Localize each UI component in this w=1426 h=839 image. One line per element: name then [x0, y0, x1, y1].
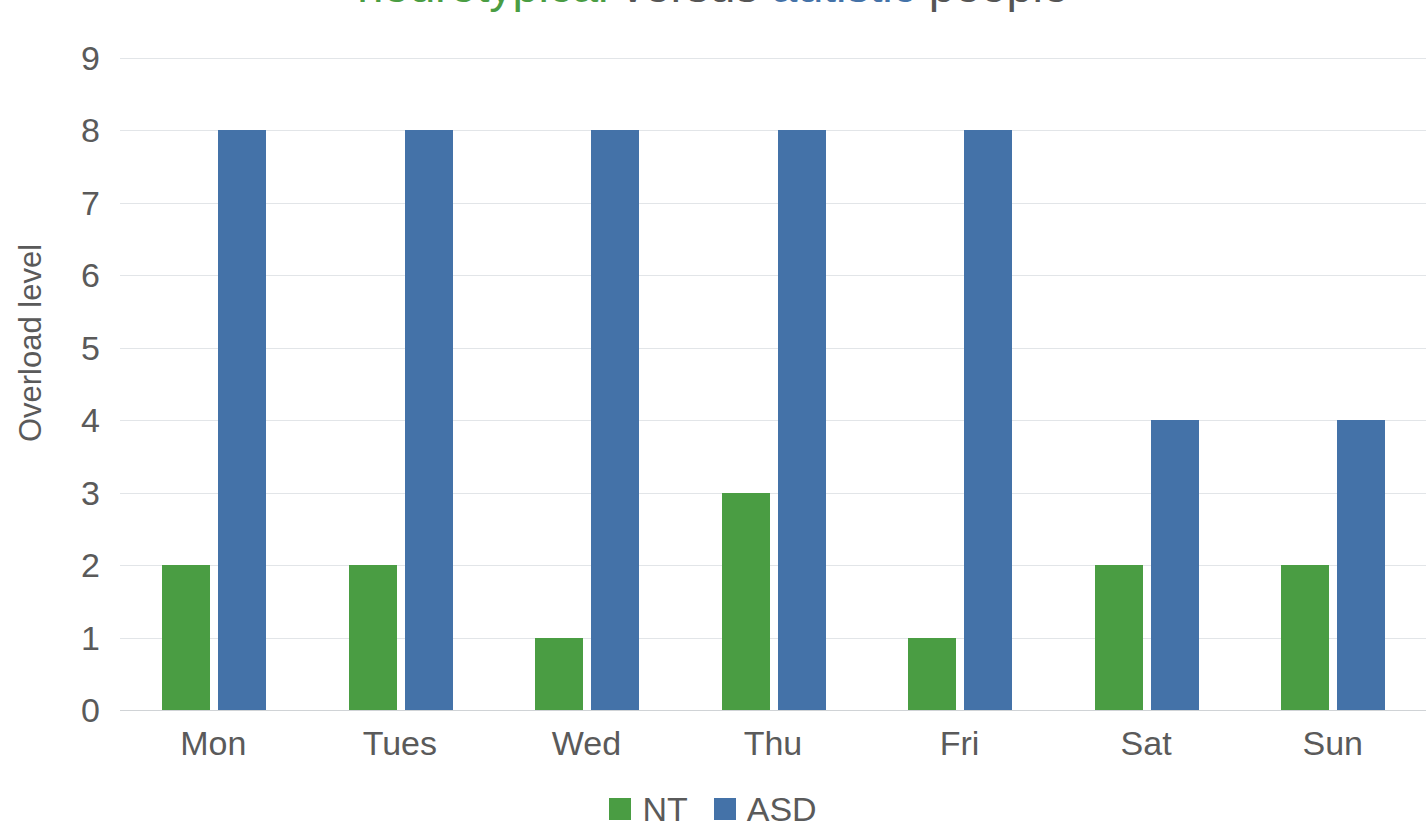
- axis-baseline: [120, 710, 1426, 711]
- y-axis-tick-label: 8: [38, 113, 100, 147]
- y-axis-tick-label: 6: [38, 258, 100, 292]
- y-axis-tick-label: 9: [38, 41, 100, 75]
- chart-screenshot: neurotypical versus autistic people Over…: [0, 0, 1426, 839]
- bar-asd-sat[interactable]: [1151, 420, 1199, 710]
- x-axis-tick-label-sat: Sat: [1053, 718, 1240, 768]
- bar-nt-fri[interactable]: [908, 638, 956, 710]
- bar-nt-mon[interactable]: [162, 565, 210, 710]
- y-axis-tick-label: 2: [38, 548, 100, 582]
- bar-asd-thu[interactable]: [778, 130, 826, 710]
- chart-title-part-autistic: autistic: [771, 0, 916, 12]
- x-axis-tick-label-wed: Wed: [493, 718, 680, 768]
- y-axis-tick-label: 0: [38, 693, 100, 727]
- bar-group: [493, 58, 680, 710]
- x-axis-tick-label-sun: Sun: [1239, 718, 1426, 768]
- y-axis-tick-label: 3: [38, 476, 100, 510]
- bar-nt-sun[interactable]: [1281, 565, 1329, 710]
- chart-title-part-neurotypical: neurotypical: [357, 0, 608, 12]
- bar-group: [1239, 58, 1426, 710]
- bar-group: [120, 58, 307, 710]
- legend-label: NT: [642, 790, 687, 828]
- y-axis-tick-label: 5: [38, 331, 100, 365]
- chart-title: neurotypical versus autistic people: [0, 0, 1426, 15]
- bar-groups: [120, 58, 1426, 710]
- bar-asd-mon[interactable]: [218, 130, 266, 710]
- chart-title-part-versus: versus: [621, 0, 758, 12]
- x-axis-tick-label-fri: Fri: [866, 718, 1053, 768]
- chart-title-part-people: people: [929, 0, 1069, 12]
- bar-asd-wed[interactable]: [591, 130, 639, 710]
- bar-group: [866, 58, 1053, 710]
- legend-swatch-icon: [609, 798, 631, 820]
- legend-item-nt[interactable]: NT: [609, 790, 687, 828]
- x-axis-tick-label-thu: Thu: [680, 718, 867, 768]
- bar-nt-tues[interactable]: [349, 565, 397, 710]
- chart-legend: NTASD: [0, 790, 1426, 828]
- bar-nt-thu[interactable]: [722, 493, 770, 710]
- y-axis-tick-label: 4: [38, 403, 100, 437]
- bar-group: [680, 58, 867, 710]
- y-axis-tick-label: 1: [38, 621, 100, 655]
- bar-nt-sat[interactable]: [1095, 565, 1143, 710]
- bar-asd-tues[interactable]: [405, 130, 453, 710]
- x-axis-tick-label-mon: Mon: [120, 718, 307, 768]
- y-axis-tick-label: 7: [38, 186, 100, 220]
- bar-group: [307, 58, 494, 710]
- x-axis-tick-labels: MonTuesWedThuFriSatSun: [120, 718, 1426, 774]
- x-axis-tick-label-tues: Tues: [307, 718, 494, 768]
- bar-nt-wed[interactable]: [535, 638, 583, 710]
- legend-label: ASD: [747, 790, 817, 828]
- bar-asd-fri[interactable]: [964, 130, 1012, 710]
- bar-asd-sun[interactable]: [1337, 420, 1385, 710]
- legend-swatch-icon: [714, 798, 736, 820]
- legend-item-asd[interactable]: ASD: [714, 790, 817, 828]
- bar-group: [1053, 58, 1240, 710]
- plot-area: [120, 58, 1426, 710]
